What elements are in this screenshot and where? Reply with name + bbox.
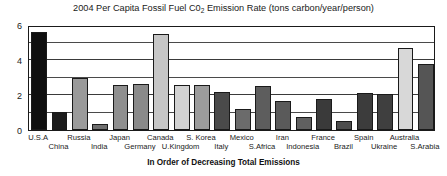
x-tick-label: Ukraine (371, 142, 397, 151)
bar (336, 121, 352, 130)
x-tick-label: Iran (276, 133, 289, 142)
bar (316, 99, 332, 130)
bar (357, 93, 373, 130)
x-tick-label: Japan (109, 133, 130, 142)
chart-title-prefix: 2004 Per Capita Fossil Fuel C0 (73, 3, 201, 13)
bar (214, 92, 230, 131)
x-axis-labels: U.S.AChinaRussiaIndiaJapanGermanyCanadaU… (28, 132, 435, 154)
x-tick-label: Mexico (230, 133, 254, 142)
x-tick-label: Spain (354, 133, 373, 142)
bar (133, 84, 149, 130)
bar (398, 48, 414, 130)
bar (31, 32, 47, 130)
y-tick-label: 6 (17, 22, 22, 31)
x-tick-label: Germany (124, 142, 155, 151)
chart-title-suffix: Emission Rate (tons carbon/year/person) (204, 3, 374, 13)
x-axis-caption: In Order of Decreasing Total Emissions (0, 158, 447, 167)
bar (255, 86, 271, 130)
x-tick-label: S.Africa (249, 142, 276, 151)
x-tick-label: U.S.A (28, 133, 48, 142)
x-tick-label: China (49, 142, 69, 151)
x-tick-label: Canada (147, 133, 174, 142)
x-tick-label: U.Kingdom (162, 142, 200, 151)
bar (296, 117, 312, 130)
bar (174, 85, 190, 131)
y-tick-label: 2 (17, 92, 22, 101)
x-tick-label: Italy (214, 142, 228, 151)
plot-area (28, 26, 435, 131)
x-tick-label: S.Arabia (410, 142, 439, 151)
x-tick-label: Brazil (334, 142, 353, 151)
bar (72, 78, 88, 131)
y-axis: 0246 (0, 26, 26, 131)
x-tick-label: Australia (390, 133, 420, 142)
bar (113, 85, 129, 131)
y-tick-label: 0 (17, 127, 22, 136)
y-tick-label: 4 (17, 57, 22, 66)
x-tick-label: Russia (67, 133, 90, 142)
x-tick-label: S. Korea (186, 133, 216, 142)
chart-container: 2004 Per Capita Fossil Fuel C02 Emission… (0, 0, 447, 176)
x-tick-label: France (311, 133, 335, 142)
bars-layer (29, 27, 434, 130)
bar (194, 85, 210, 131)
bar (377, 94, 393, 130)
bar (92, 124, 108, 130)
bar (52, 112, 68, 130)
x-tick-label: India (91, 142, 107, 151)
bar (153, 34, 169, 130)
bar (235, 109, 251, 130)
chart-title: 2004 Per Capita Fossil Fuel C02 Emission… (0, 2, 447, 17)
x-tick-label: Indonesia (286, 142, 319, 151)
bar (275, 101, 291, 130)
bar (418, 64, 434, 131)
